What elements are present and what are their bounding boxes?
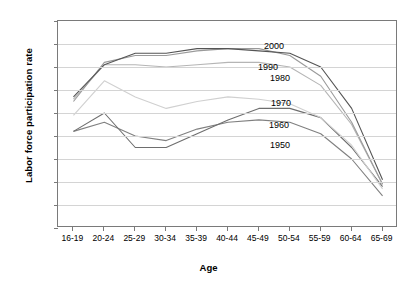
- x-axis-title: Age: [0, 262, 417, 273]
- x-axis-tick: [227, 227, 228, 231]
- x-axis-tick: [320, 227, 321, 231]
- chart-container: Labor force participation rate 0%10%20%3…: [0, 0, 417, 286]
- gridline: [58, 182, 396, 183]
- y-axis-tick: [54, 44, 58, 45]
- y-axis-tick: [54, 159, 58, 160]
- y-axis-tick: [54, 205, 58, 206]
- x-axis-tick: [165, 227, 166, 231]
- y-axis-tick: [54, 67, 58, 68]
- gridline: [58, 136, 396, 137]
- series-label-1980: 1980: [270, 73, 290, 83]
- y-axis-tick: [54, 136, 58, 137]
- y-axis-tick: [54, 90, 58, 91]
- x-axis-tick: [196, 227, 197, 231]
- series-label-1990: 1990: [258, 62, 278, 72]
- gridline: [58, 159, 396, 160]
- series-line-1980: [73, 62, 382, 184]
- x-axis-tick: [103, 227, 104, 231]
- gridline: [58, 44, 396, 45]
- gridline: [58, 113, 396, 114]
- series-label-1970: 1970: [271, 98, 291, 108]
- y-axis-tick: [54, 182, 58, 183]
- x-axis-tick-labels: 16-1920-2425-2930-3435-3940-4445-4950-54…: [57, 227, 397, 257]
- gridline: [58, 67, 396, 68]
- series-line-2000: [73, 49, 382, 180]
- y-axis-title: Labor force participation rate: [23, 26, 34, 206]
- x-axis-tick: [258, 227, 259, 231]
- x-axis-tick: [351, 227, 352, 231]
- series-label-2000: 2000: [264, 41, 284, 51]
- x-axis-tick: [72, 227, 73, 231]
- series-line-1990: [73, 49, 382, 185]
- y-axis-tick: [54, 21, 58, 22]
- series-lines: [58, 21, 398, 228]
- series-line-1970: [73, 81, 382, 189]
- series-label-1960: 1960: [269, 120, 289, 130]
- y-axis-tick: [54, 113, 58, 114]
- x-axis-tick: [382, 227, 383, 231]
- gridline: [58, 205, 396, 206]
- series-line-1960: [73, 108, 382, 186]
- plot-area: [57, 20, 397, 227]
- gridline: [58, 90, 396, 91]
- x-axis-tick-label: 65-69: [358, 233, 406, 243]
- x-axis-tick: [134, 227, 135, 231]
- x-axis-tick: [289, 227, 290, 231]
- series-label-1950: 1950: [270, 140, 290, 150]
